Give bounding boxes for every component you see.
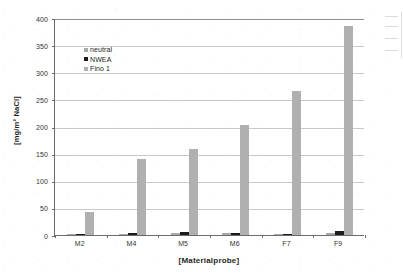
bar-nwea-f7 xyxy=(283,234,292,235)
bar-fino-1-m4 xyxy=(137,159,146,235)
legend-label: neutral xyxy=(90,45,112,55)
legend-label: Fino 1 xyxy=(90,64,110,74)
bar-nwea-m4 xyxy=(128,233,137,235)
legend-swatch-icon xyxy=(84,48,88,52)
bar-nwea-m5 xyxy=(180,232,189,235)
bar-neutral-m6 xyxy=(222,233,231,235)
legend-item-nwea: NWEA xyxy=(84,55,112,65)
legend-swatch-icon xyxy=(84,57,88,61)
y-axis-tick-mark xyxy=(52,182,55,183)
bar-neutral-m2 xyxy=(67,234,76,235)
gridline xyxy=(55,209,364,210)
x-axis-tick-label: M4 xyxy=(106,240,158,248)
bar-fino-1-m5 xyxy=(189,149,198,235)
y-axis-tick-mark xyxy=(52,46,55,47)
x-axis-tick-label: F7 xyxy=(261,240,313,248)
x-axis-tick-mark xyxy=(210,235,211,238)
gridline xyxy=(55,182,364,183)
y-axis-tick-label: 400 xyxy=(18,16,48,23)
gridline xyxy=(55,155,364,156)
y-axis-tick-mark xyxy=(52,73,55,74)
chart-legend: neutralNWEAFino 1 xyxy=(84,45,112,74)
y-axis-tick-mark xyxy=(52,155,55,156)
x-axis-tick-label: M6 xyxy=(209,240,261,248)
x-axis-tick-mark xyxy=(313,235,314,238)
bar-neutral-f7 xyxy=(274,234,283,235)
y-axis-tick-mark xyxy=(52,19,55,20)
y-axis-tick-label: 0 xyxy=(18,233,48,240)
legend-label: NWEA xyxy=(90,55,111,65)
x-axis-tick-label: F9 xyxy=(312,240,364,248)
y-axis-tick-mark xyxy=(52,209,55,210)
y-axis-tick-label: 300 xyxy=(18,70,48,77)
x-axis-tick-label: M5 xyxy=(157,240,209,248)
y-axis-tick-label: 50 xyxy=(18,205,48,212)
bar-fino-1-m6 xyxy=(240,125,249,235)
scan-edge-line xyxy=(401,12,402,58)
bar-chart-figure: [mg/m² NaCl] 050100150200250300350400 M2… xyxy=(0,0,403,279)
y-axis-tick-mark xyxy=(52,100,55,101)
gridline xyxy=(55,128,364,129)
bar-neutral-m5 xyxy=(171,233,180,235)
bar-nwea-m6 xyxy=(231,233,240,235)
legend-swatch-icon xyxy=(84,67,88,71)
x-axis-tick-mark xyxy=(55,235,56,238)
x-axis-tick-mark xyxy=(262,235,263,238)
bar-neutral-f9 xyxy=(326,233,335,235)
bar-fino-1-m2 xyxy=(85,212,94,235)
x-axis-tick-mark xyxy=(365,235,366,238)
y-axis-tick-label: 350 xyxy=(18,43,48,50)
y-axis-tick-label: 100 xyxy=(18,178,48,185)
x-axis-tick-label: M2 xyxy=(54,240,106,248)
gridline xyxy=(55,100,364,101)
legend-item-neutral: neutral xyxy=(84,45,112,55)
y-axis-tick-mark xyxy=(52,128,55,129)
x-axis-tick-mark xyxy=(158,235,159,238)
y-axis-tick-label: 150 xyxy=(18,151,48,158)
x-axis-tick-mark xyxy=(107,235,108,238)
bar-fino-1-f9 xyxy=(344,26,353,235)
y-axis-tick-label: 200 xyxy=(18,124,48,131)
bar-nwea-f9 xyxy=(335,231,344,235)
bar-neutral-m4 xyxy=(119,234,128,235)
bar-nwea-m2 xyxy=(76,234,85,235)
bar-fino-1-f7 xyxy=(292,91,301,235)
y-axis-tick-label: 250 xyxy=(18,97,48,104)
legend-item-fino-1: Fino 1 xyxy=(84,64,112,74)
x-axis-title: [Materialprobe] xyxy=(54,256,364,265)
scan-edge-artifact xyxy=(385,12,401,58)
y-axis-title: [mg/m² NaCl] xyxy=(8,60,26,180)
